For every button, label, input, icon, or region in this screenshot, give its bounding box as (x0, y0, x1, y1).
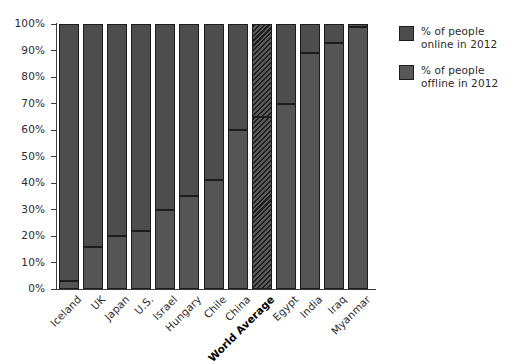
bar-segment-offline[interactable] (155, 24, 175, 210)
bar-column[interactable] (276, 24, 296, 289)
bar-segment-online[interactable] (59, 281, 79, 289)
bar-column[interactable] (179, 24, 199, 289)
y-axis-tick-label: 80% (5, 70, 45, 82)
y-axis-tick-label: 70% (5, 97, 45, 109)
y-axis-tick-label: 30% (5, 203, 45, 215)
x-axis-line (56, 289, 376, 290)
bar-segment-offline[interactable] (324, 24, 344, 43)
legend-label-line-1: % of people (421, 25, 497, 38)
x-axis-label: UK (89, 293, 108, 312)
bar-segment-offline[interactable] (59, 24, 79, 281)
x-axis-label: Japan (102, 293, 132, 323)
legend-swatch-offline (399, 65, 414, 80)
bar-segment-online[interactable] (204, 180, 224, 289)
bar-segment-offline[interactable] (252, 24, 272, 117)
y-axis-tick-label: 0% (5, 282, 45, 294)
x-axis-label: Iceland (48, 293, 84, 329)
bar-segment-online[interactable] (348, 27, 368, 289)
y-axis-tick-label: 60% (5, 123, 45, 135)
y-axis-tick-label: 40% (5, 176, 45, 188)
legend-label-line-1: % of people (421, 64, 498, 77)
bar-segment-online[interactable] (107, 236, 127, 289)
legend-label: % of peopleoffline in 2012 (421, 64, 498, 89)
bar-segment-online[interactable] (228, 130, 248, 289)
legend-item[interactable]: % of peopleoffline in 2012 (399, 64, 523, 89)
y-axis-tick-label: 20% (5, 229, 45, 241)
bar-segment-online[interactable] (276, 104, 296, 290)
bar-segment-online[interactable] (252, 117, 272, 289)
legend-label-line-2: online in 2012 (421, 38, 497, 51)
bar-segment-offline[interactable] (107, 24, 127, 236)
bar-column[interactable] (131, 24, 151, 289)
bar-column[interactable] (107, 24, 127, 289)
legend-label: % of peopleonline in 2012 (421, 25, 497, 50)
bar-column[interactable] (228, 24, 248, 289)
y-axis-tick-label: 90% (5, 44, 45, 56)
y-axis-tick-label: 10% (5, 256, 45, 268)
y-axis-tick-label: 100% (5, 17, 45, 29)
bar-segment-offline[interactable] (228, 24, 248, 130)
bar-segment-online[interactable] (155, 210, 175, 290)
bar-segment-online[interactable] (83, 247, 103, 289)
x-axis-label: India (297, 293, 324, 320)
plot-area (57, 24, 370, 289)
bar-column[interactable] (324, 24, 344, 289)
bar-segment-offline[interactable] (131, 24, 151, 231)
bar-segment-offline[interactable] (276, 24, 296, 104)
bar-segment-online[interactable] (131, 231, 151, 289)
bar-segment-offline[interactable] (204, 24, 224, 180)
legend-swatch-online (399, 26, 414, 41)
bar-segment-offline[interactable] (179, 24, 199, 196)
bar-column[interactable] (348, 24, 368, 289)
bar-segment-online[interactable] (179, 196, 199, 289)
bar-column[interactable] (252, 24, 272, 289)
legend-item[interactable]: % of peopleonline in 2012 (399, 25, 523, 50)
bar-column[interactable] (300, 24, 320, 289)
bar-column[interactable] (59, 24, 79, 289)
chart-legend: % of peopleonline in 2012% of peopleoffl… (399, 25, 523, 103)
bar-segment-offline[interactable] (300, 24, 320, 53)
y-axis-tick-label: 50% (5, 150, 45, 162)
bar-segment-online[interactable] (300, 53, 320, 289)
legend-label-line-2: offline in 2012 (421, 77, 498, 90)
bar-segment-online[interactable] (324, 43, 344, 289)
bar-column[interactable] (83, 24, 103, 289)
bar-segment-offline[interactable] (83, 24, 103, 247)
x-axis-label: Egypt (270, 293, 300, 323)
bar-column[interactable] (204, 24, 224, 289)
bar-column[interactable] (155, 24, 175, 289)
